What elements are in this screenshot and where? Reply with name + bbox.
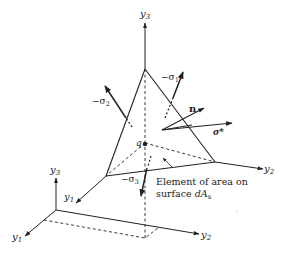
ref-y3-label: y3 xyxy=(49,164,61,177)
point-q xyxy=(143,142,147,146)
sigma3-vector xyxy=(141,168,147,196)
ref-y2-axis xyxy=(56,210,199,234)
sigma2-label: −σ2 xyxy=(92,96,110,108)
y1-axis-mid xyxy=(76,176,106,203)
stress-tetrahedron-diagram: y3 y2 y1 q −σ2 −σ1 n σ* −σ3 Element of a… xyxy=(0,0,287,256)
speck xyxy=(236,210,237,211)
area-pointer xyxy=(163,158,172,167)
ref-projection-dashed xyxy=(44,220,158,238)
sigma2-vector-hidden xyxy=(126,118,132,127)
y1-axis-label: y1 xyxy=(63,191,74,204)
ref-y1-axis xyxy=(25,210,56,236)
y3-axis-label: y3 xyxy=(139,8,151,21)
area-annotation-line1: Element of area on xyxy=(156,176,248,187)
sigma3-vector-hidden xyxy=(148,156,151,166)
ref-y2-label: y2 xyxy=(200,229,212,242)
sigma-star-label: σ* xyxy=(213,127,224,137)
edge-apex-right xyxy=(145,69,215,162)
y2-axis-label: y2 xyxy=(263,163,275,176)
y2-axis-right xyxy=(215,162,263,169)
area-annotation-line2: surface dAs xyxy=(156,188,212,201)
sigma1-label: −σ1 xyxy=(161,72,179,84)
edge-apex-left xyxy=(106,69,145,176)
normal-label: n xyxy=(189,103,197,114)
edge-q-right-dashed xyxy=(145,143,215,162)
sigma3-label: −σ3 xyxy=(121,174,139,186)
ref-y1-label: y1 xyxy=(11,231,22,244)
point-q-label: q xyxy=(136,138,142,148)
